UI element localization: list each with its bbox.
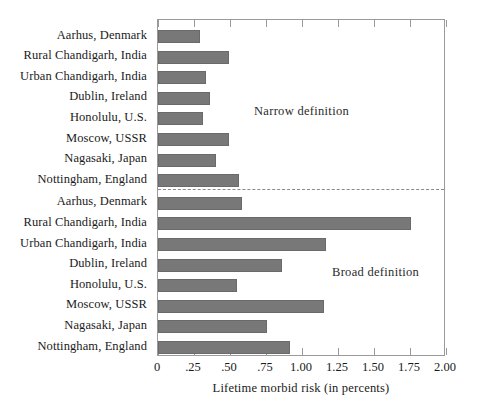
- axis-tick: [302, 348, 303, 355]
- bar: [158, 92, 210, 105]
- bar: [158, 259, 282, 272]
- category-label: Rural Chandigarh, India: [0, 215, 152, 230]
- axis-tick: [194, 20, 195, 27]
- x-tick-label: 1.00: [290, 360, 312, 375]
- category-label: Moscow, USSR: [0, 131, 152, 146]
- axis-tick: [266, 20, 267, 27]
- plot-area: Narrow definition Broad definition: [157, 19, 445, 356]
- section-divider-dashed-line: [158, 189, 444, 190]
- annotation-broad-definition: Broad definition: [332, 265, 419, 280]
- bar: [158, 320, 267, 333]
- x-tick-label: 1.75: [398, 360, 420, 375]
- bar: [158, 174, 239, 187]
- category-label: Nottingham, England: [0, 339, 152, 354]
- annotation-narrow-definition: Narrow definition: [254, 104, 349, 119]
- axis-tick: [410, 20, 411, 27]
- x-tick-label: 2.00: [434, 360, 456, 375]
- bar: [158, 51, 229, 64]
- axis-tick: [446, 348, 447, 355]
- axis-tick: [302, 20, 303, 27]
- bar: [158, 217, 411, 230]
- axis-tick: [410, 348, 411, 355]
- x-tick-label: 0: [154, 360, 160, 375]
- bar: [158, 71, 206, 84]
- axis-tick: [446, 20, 447, 27]
- bar-chart-figure: Aarhus, DenmarkRural Chandigarh, IndiaUr…: [0, 0, 479, 406]
- category-label: Nagasaki, Japan: [0, 318, 152, 333]
- bar: [158, 197, 242, 210]
- x-tick-label: .50: [221, 360, 237, 375]
- category-label: Dublin, Ireland: [0, 89, 152, 104]
- category-label: Aarhus, Denmark: [0, 28, 152, 43]
- category-label: Aarhus, Denmark: [0, 194, 152, 209]
- x-tick-label: 1.25: [326, 360, 348, 375]
- category-label: Honolulu, U.S.: [0, 277, 152, 292]
- x-tick-label: .25: [185, 360, 201, 375]
- category-label: Nottingham, England: [0, 172, 152, 187]
- axis-tick: [338, 348, 339, 355]
- bar: [158, 341, 290, 354]
- axis-tick: [230, 20, 231, 27]
- x-axis-title: Lifetime morbid risk (in percents): [157, 381, 445, 396]
- x-tick-label: 1.50: [362, 360, 384, 375]
- bar: [158, 238, 326, 251]
- axis-tick: [374, 20, 375, 27]
- category-label: Nagasaki, Japan: [0, 151, 152, 166]
- category-label: Dublin, Ireland: [0, 256, 152, 271]
- x-axis-tick-labels: 0.25.50.751.001.251.501.752.00: [157, 360, 445, 378]
- category-label: Honolulu, U.S.: [0, 110, 152, 125]
- x-tick-label: .75: [257, 360, 273, 375]
- category-label: Urban Chandigarh, India: [0, 236, 152, 251]
- bar: [158, 30, 200, 43]
- category-axis-labels: Aarhus, DenmarkRural Chandigarh, IndiaUr…: [0, 19, 152, 356]
- axis-tick: [374, 348, 375, 355]
- bar: [158, 133, 229, 146]
- axis-tick: [338, 20, 339, 27]
- axis-tick: [158, 20, 159, 27]
- bar: [158, 279, 237, 292]
- bar: [158, 112, 203, 125]
- category-label: Moscow, USSR: [0, 297, 152, 312]
- category-label: Urban Chandigarh, India: [0, 69, 152, 84]
- bar: [158, 154, 216, 167]
- bar: [158, 300, 324, 313]
- category-label: Rural Chandigarh, India: [0, 48, 152, 63]
